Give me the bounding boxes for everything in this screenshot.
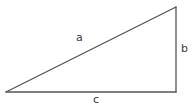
label-vertical-leg-b: b [181, 43, 188, 54]
triangle-shape [0, 0, 193, 106]
label-horizontal-leg-c: c [93, 94, 99, 105]
label-hypotenuse-a: a [76, 32, 83, 43]
hypotenuse-line-a [6, 7, 176, 92]
right-triangle-diagram: a b c [0, 0, 193, 106]
